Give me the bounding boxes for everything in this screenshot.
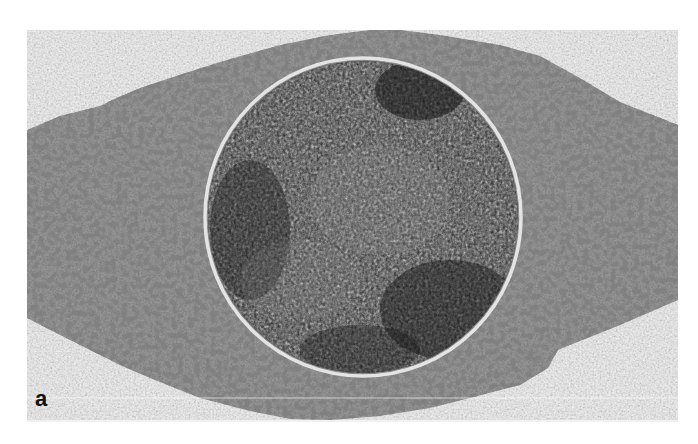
micrograph-image (0, 0, 698, 444)
micrograph-figure: a (0, 0, 698, 444)
panel-label: a (35, 388, 47, 410)
